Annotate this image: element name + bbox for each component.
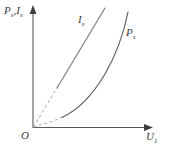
curve-label-is: Is: [78, 14, 84, 28]
curve-ps-dashed-segment: [34, 117, 65, 128]
y-axis-label-p: P: [4, 4, 11, 16]
figure-container: Ps,Is U1 O Is Ps: [0, 0, 170, 155]
x-axis-label-sub: 1: [154, 137, 158, 145]
x-axis-label-u: U: [146, 130, 154, 142]
curve-ps-solid-segment: [62, 12, 128, 117]
curve-label-ps-sub: s: [133, 33, 136, 41]
curve-label-is-sub: s: [82, 20, 85, 28]
curve-is-dashed-segment: [34, 86, 59, 127]
y-axis-label: Ps,Is: [4, 5, 23, 19]
curve-label-ps: Ps: [126, 27, 135, 41]
x-axis-label: U1: [146, 131, 157, 145]
y-axis-arrowhead: [30, 5, 37, 14]
y-axis-label-i-sub: s: [20, 11, 23, 19]
curve-label-ps-main: P: [126, 26, 133, 38]
origin-label: O: [21, 130, 29, 141]
